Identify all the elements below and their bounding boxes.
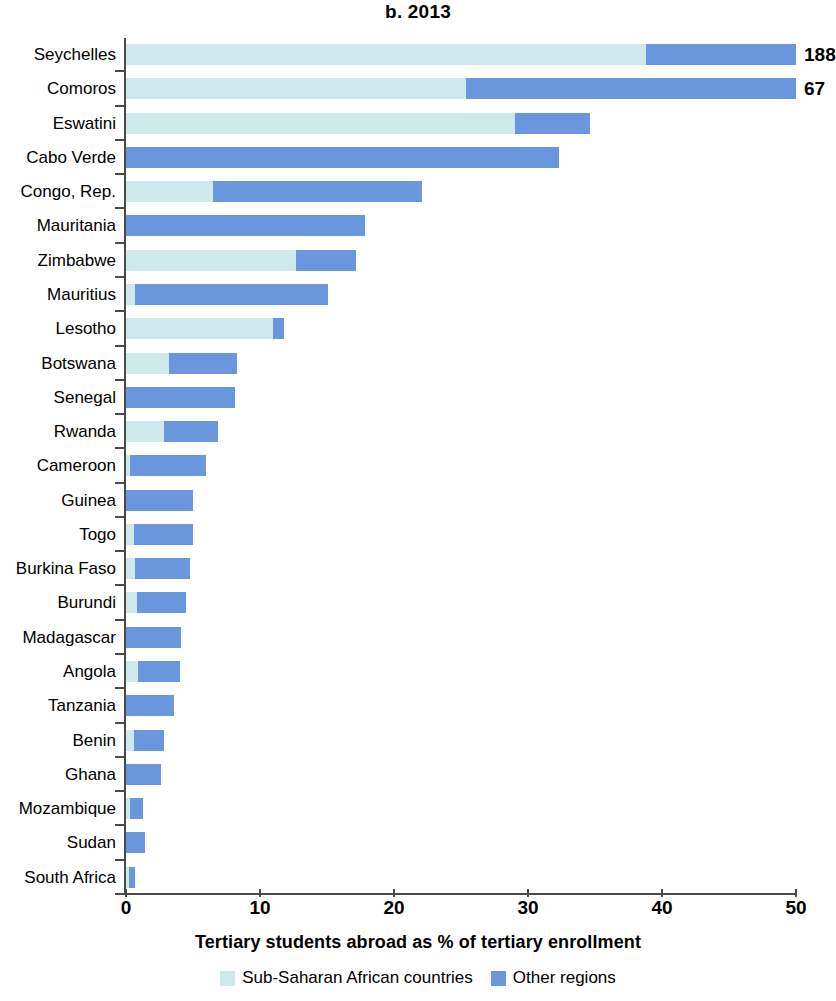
stacked-bar — [126, 215, 365, 236]
bar-row: Tanzania — [0, 689, 836, 722]
bar-segment-other — [126, 147, 559, 168]
bar-segment-other — [126, 490, 193, 511]
stacked-bar — [126, 250, 356, 271]
x-axis-tick — [393, 889, 395, 897]
stacked-bar — [126, 421, 218, 442]
chart-title: b. 2013 — [0, 0, 836, 24]
stacked-bar — [126, 524, 193, 545]
bar-segment-ssa — [126, 44, 646, 65]
bar-row: Sudan — [0, 826, 836, 859]
x-axis-tick-label: 50 — [785, 897, 806, 919]
bar-row: Mauritania — [0, 209, 836, 242]
bar-row: Lesotho — [0, 312, 836, 345]
bar-segment-ssa — [126, 250, 296, 271]
bar-row: Senegal — [0, 381, 836, 414]
stacked-bar — [126, 592, 186, 613]
bar-row: Togo — [0, 518, 836, 551]
bar-row: Eswatini — [0, 107, 836, 140]
bar-segment-other — [135, 284, 328, 305]
x-axis-tick-label: 10 — [249, 897, 270, 919]
stacked-bar — [126, 730, 164, 751]
x-axis-tick-label: 0 — [121, 897, 132, 919]
bar-row: Cabo Verde — [0, 141, 836, 174]
bar-row-label: Sudan — [0, 826, 126, 859]
bar-segment-other — [169, 353, 237, 374]
bar-row-label: Madagascar — [0, 621, 126, 654]
stacked-bar — [126, 78, 796, 99]
bar-segment-other — [129, 867, 136, 888]
bar-segment-ssa — [126, 730, 134, 751]
bar-segment-ssa — [126, 353, 169, 374]
bar-segment-other — [126, 387, 235, 408]
bar-row-label: Burundi — [0, 586, 126, 619]
bar-row-label: Botswana — [0, 347, 126, 380]
bar-segment-other — [126, 832, 145, 853]
x-axis-tick — [661, 889, 663, 897]
x-axis-ticks: 01020304050 — [0, 895, 836, 929]
stacked-bar — [126, 44, 796, 65]
stacked-bar — [126, 147, 559, 168]
bar-segment-other — [273, 318, 284, 339]
bar-segment-other — [466, 78, 796, 99]
bar-segment-other — [126, 695, 174, 716]
bar-segment-ssa — [126, 318, 273, 339]
bar-row-label: Burkina Faso — [0, 552, 126, 585]
bar-row-label: Mauritania — [0, 209, 126, 242]
bar-segment-other — [130, 455, 206, 476]
bar-row: Seychelles188 — [0, 38, 836, 71]
stacked-bar — [126, 695, 174, 716]
bar-row: Benin — [0, 724, 836, 757]
bar-row-label: Rwanda — [0, 415, 126, 448]
bar-row-label: Guinea — [0, 484, 126, 517]
bar-segment-ssa — [126, 284, 135, 305]
bar-segment-other — [126, 764, 161, 785]
bar-row-label: Seychelles — [0, 38, 126, 71]
legend-item: Sub-Saharan African countries — [220, 968, 473, 988]
bar-segment-ssa — [126, 558, 135, 579]
bar-row-label: Comoros — [0, 72, 126, 105]
legend-label: Sub-Saharan African countries — [242, 968, 473, 988]
bar-row: Ghana — [0, 758, 836, 791]
bar-segment-ssa — [126, 661, 138, 682]
bar-row: Mozambique — [0, 792, 836, 825]
bar-row: Burkina Faso — [0, 552, 836, 585]
bar-segment-other — [135, 558, 190, 579]
bar-row-label: South Africa — [0, 861, 126, 894]
x-axis-tick — [125, 889, 127, 897]
stacked-bar — [126, 627, 181, 648]
stacked-bar — [126, 558, 190, 579]
bar-row-label: Mauritius — [0, 278, 126, 311]
x-axis-tick — [527, 889, 529, 897]
stacked-bar — [126, 661, 180, 682]
stacked-bar — [126, 318, 284, 339]
stacked-bar — [126, 867, 135, 888]
bar-row: Botswana — [0, 347, 836, 380]
bar-value-label: 188 — [804, 44, 836, 65]
legend-swatch-icon — [491, 971, 506, 986]
bar-segment-other — [164, 421, 219, 442]
bar-row-label: Congo, Rep. — [0, 175, 126, 208]
bar-chart: b. 2013 Seychelles188Comoros67EswatiniCa… — [0, 0, 836, 1001]
bar-row: Angola — [0, 655, 836, 688]
bar-segment-ssa — [126, 78, 466, 99]
bar-segment-ssa — [126, 181, 213, 202]
stacked-bar — [126, 490, 193, 511]
bar-row-label: Cameroon — [0, 449, 126, 482]
bar-row-label: Togo — [0, 518, 126, 551]
bar-row: Congo, Rep. — [0, 175, 836, 208]
bar-row-label: Mozambique — [0, 792, 126, 825]
stacked-bar — [126, 387, 235, 408]
stacked-bar — [126, 455, 206, 476]
bar-segment-other — [213, 181, 422, 202]
bar-row-label: Angola — [0, 655, 126, 688]
bar-segment-other — [134, 524, 193, 545]
bar-row-label: Zimbabwe — [0, 244, 126, 277]
bar-segment-other — [126, 627, 181, 648]
bar-row: Comoros67 — [0, 72, 836, 105]
stacked-bar — [126, 113, 590, 134]
bar-segment-other — [137, 592, 187, 613]
x-axis-tick — [259, 889, 261, 897]
bar-row: Madagascar — [0, 621, 836, 654]
bar-segment-ssa — [126, 421, 164, 442]
bar-segment-other — [130, 798, 143, 819]
